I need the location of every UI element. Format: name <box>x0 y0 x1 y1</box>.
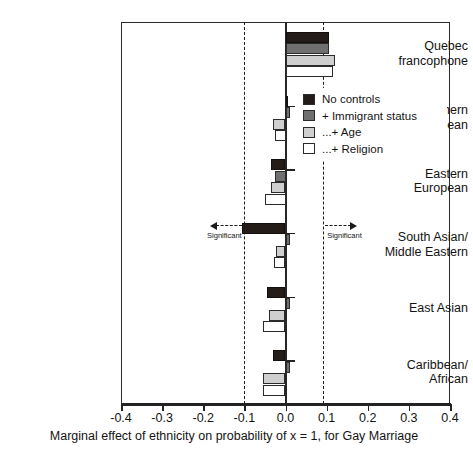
significance-threshold-line-right <box>323 22 324 404</box>
legend-swatch-icon <box>303 127 315 138</box>
bar <box>273 119 285 130</box>
y-axis-label-2: Eastern European <box>356 167 468 196</box>
x-tick-5 <box>327 404 329 411</box>
bar <box>271 182 285 193</box>
x-tick-2 <box>203 404 205 411</box>
zero-line <box>285 22 287 404</box>
significant-arrow-left <box>210 221 242 230</box>
legend-item: ...+ Age <box>303 124 443 141</box>
legend-swatch-icon <box>303 110 315 121</box>
category-tick-2 <box>286 169 295 171</box>
bar <box>286 66 333 77</box>
legend-item-label: + Immigrant status <box>322 110 417 122</box>
legend-swatch-icon <box>303 94 315 105</box>
x-tick-6 <box>368 404 370 411</box>
bar <box>263 321 286 332</box>
x-tick-4 <box>286 404 288 411</box>
bar <box>275 130 285 141</box>
bar <box>286 96 288 107</box>
bar <box>275 171 285 182</box>
bar <box>286 234 291 245</box>
legend-item-label: No controls <box>322 93 380 105</box>
significant-label-right: Significant <box>315 231 375 240</box>
x-tick-3 <box>244 404 246 411</box>
legend-item: ...+ Religion <box>303 141 443 158</box>
legend-item-label: ...+ Age <box>322 126 361 138</box>
bar <box>286 362 291 373</box>
y-axis-label-5: Caribbean/ African <box>356 358 468 387</box>
bar <box>265 194 286 205</box>
legend-swatch-icon <box>303 143 315 154</box>
significant-arrow-right <box>325 221 357 230</box>
bar <box>273 350 285 361</box>
legend-item: No controls <box>303 91 443 108</box>
bar <box>269 310 285 321</box>
legend: No controls+ Immigrant status...+ Age...… <box>299 88 447 161</box>
bar <box>263 385 286 396</box>
bar <box>286 32 329 43</box>
bar <box>286 43 329 54</box>
bar <box>271 159 285 170</box>
bar <box>274 257 286 268</box>
bar <box>286 107 291 118</box>
bar <box>276 246 285 257</box>
bar <box>267 287 286 298</box>
legend-item: + Immigrant status <box>303 108 443 125</box>
x-axis-title: Marginal effect of ethnicity on probabil… <box>0 429 468 443</box>
bar <box>286 298 291 309</box>
y-axis-label-0: Quebec francophone <box>356 39 468 68</box>
x-tick-8 <box>450 404 452 411</box>
bar <box>263 373 286 384</box>
significant-label-left: Significant <box>194 231 254 240</box>
y-axis-label-4: East Asian <box>356 301 468 316</box>
bar <box>286 55 335 66</box>
x-tick-1 <box>162 404 164 411</box>
legend-item-label: ...+ Religion <box>322 143 383 155</box>
x-tick-0 <box>121 404 123 411</box>
x-tick-label-8: 0.4 <box>423 411 473 425</box>
x-tick-7 <box>409 404 411 411</box>
significance-threshold-line-left <box>244 22 245 404</box>
